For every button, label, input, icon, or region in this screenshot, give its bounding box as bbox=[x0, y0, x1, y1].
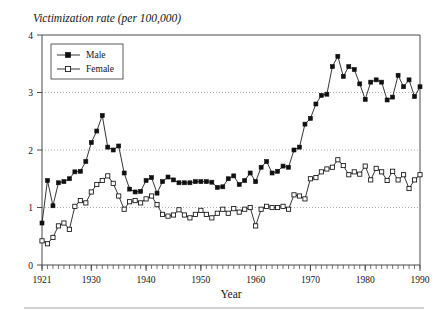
data-point-marker bbox=[248, 205, 252, 209]
data-point-marker bbox=[325, 167, 329, 171]
x-tick-label: 1950 bbox=[191, 275, 210, 285]
data-point-marker bbox=[297, 194, 301, 198]
data-point-marker bbox=[149, 194, 153, 198]
data-point-marker bbox=[276, 169, 280, 173]
data-point-marker bbox=[281, 204, 285, 208]
victimization-rate-line-chart: Victimization rate (per 100,000) 1921193… bbox=[0, 0, 448, 312]
data-point-marker bbox=[182, 213, 186, 217]
data-point-marker bbox=[188, 216, 192, 220]
data-point-marker bbox=[51, 235, 55, 239]
data-point-marker bbox=[62, 180, 66, 184]
data-point-marker bbox=[133, 199, 137, 203]
data-point-marker bbox=[73, 170, 77, 174]
legend-label-female: Female bbox=[86, 64, 114, 74]
data-point-marker bbox=[128, 200, 132, 204]
data-point-marker bbox=[380, 80, 384, 84]
chart-legend: Male Female bbox=[51, 44, 123, 79]
data-point-marker bbox=[51, 204, 55, 208]
data-point-marker bbox=[210, 216, 214, 220]
data-point-marker bbox=[95, 129, 99, 133]
data-point-marker bbox=[270, 171, 274, 175]
data-point-marker bbox=[336, 54, 340, 58]
data-point-marker bbox=[287, 165, 291, 169]
x-tick-label: 1970 bbox=[301, 275, 320, 285]
data-point-marker bbox=[237, 183, 241, 187]
data-point-marker bbox=[330, 65, 334, 69]
data-point-marker bbox=[221, 207, 225, 211]
legend-marker-male bbox=[65, 52, 70, 57]
series-line bbox=[42, 160, 420, 244]
data-point-marker bbox=[177, 181, 181, 185]
data-point-marker bbox=[380, 170, 384, 174]
data-point-marker bbox=[358, 172, 362, 176]
data-point-marker bbox=[106, 174, 110, 178]
data-point-marker bbox=[166, 175, 170, 179]
gridlines bbox=[42, 93, 420, 208]
data-point-marker bbox=[171, 213, 175, 217]
data-point-marker bbox=[117, 144, 121, 148]
data-point-marker bbox=[374, 78, 378, 82]
data-point-marker bbox=[402, 85, 406, 89]
data-point-marker bbox=[73, 204, 77, 208]
data-point-marker bbox=[67, 227, 71, 231]
data-point-marker bbox=[89, 141, 93, 145]
data-point-marker bbox=[122, 207, 126, 211]
data-point-marker bbox=[144, 178, 148, 182]
data-point-marker bbox=[259, 165, 263, 169]
data-point-marker bbox=[204, 180, 208, 184]
data-point-marker bbox=[401, 173, 405, 177]
data-point-marker bbox=[319, 170, 323, 174]
data-point-marker bbox=[139, 189, 143, 193]
data-point-marker bbox=[67, 177, 71, 181]
data-point-marker bbox=[248, 171, 252, 175]
data-point-marker bbox=[369, 80, 373, 84]
data-point-marker bbox=[144, 197, 148, 201]
y-tick-label: 3 bbox=[28, 88, 33, 98]
data-point-marker bbox=[56, 181, 60, 185]
x-tick-label: 1930 bbox=[82, 275, 101, 285]
data-point-marker bbox=[352, 170, 356, 174]
data-point-marker bbox=[303, 197, 307, 201]
data-point-marker bbox=[40, 221, 44, 225]
data-point-marker bbox=[122, 171, 126, 175]
data-point-marker bbox=[84, 201, 88, 205]
data-point-marker bbox=[111, 181, 115, 185]
data-point-marker bbox=[374, 166, 378, 170]
data-point-marker bbox=[155, 191, 159, 195]
data-point-marker bbox=[336, 158, 340, 162]
data-point-marker bbox=[352, 68, 356, 72]
data-point-marker bbox=[341, 163, 345, 167]
x-tick-label: 1980 bbox=[356, 275, 375, 285]
data-point-marker bbox=[150, 176, 154, 180]
data-point-marker bbox=[161, 180, 165, 184]
data-point-marker bbox=[259, 207, 263, 211]
data-point-marker bbox=[319, 93, 323, 97]
data-point-marker bbox=[243, 207, 247, 211]
data-point-marker bbox=[117, 194, 121, 198]
y-tick-label: 0 bbox=[28, 261, 33, 271]
data-point-marker bbox=[232, 207, 236, 211]
y-tick-label: 2 bbox=[28, 146, 33, 156]
data-point-marker bbox=[237, 210, 241, 214]
data-point-marker bbox=[243, 178, 247, 182]
x-axis-ticks: 19211930194019501960197019801990 bbox=[33, 265, 430, 285]
data-point-marker bbox=[188, 181, 192, 185]
data-point-marker bbox=[254, 180, 258, 184]
data-point-marker bbox=[89, 190, 93, 194]
data-point-marker bbox=[391, 169, 395, 173]
data-point-marker bbox=[232, 174, 236, 178]
y-axis-ticks: 01234 bbox=[28, 31, 42, 271]
data-point-marker bbox=[193, 180, 197, 184]
data-point-marker bbox=[418, 173, 422, 177]
data-point-marker bbox=[292, 148, 296, 152]
data-point-marker bbox=[396, 73, 400, 77]
data-point-marker bbox=[347, 65, 351, 69]
data-point-marker bbox=[297, 145, 301, 149]
data-point-marker bbox=[391, 95, 395, 99]
data-point-marker bbox=[111, 148, 115, 152]
data-point-marker bbox=[385, 98, 389, 102]
data-point-marker bbox=[265, 204, 269, 208]
data-point-marker bbox=[160, 212, 164, 216]
data-point-marker bbox=[363, 164, 367, 168]
data-point-marker bbox=[204, 212, 208, 216]
